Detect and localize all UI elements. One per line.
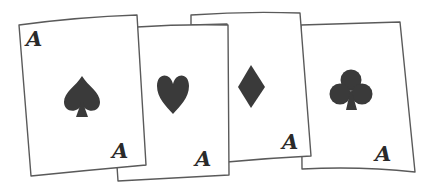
card-ace-of-spades: A A <box>19 15 146 176</box>
rank-label-bottom: A <box>373 141 391 166</box>
rank-label-bottom: A <box>193 146 211 171</box>
aces-illustration: A A A A A <box>0 0 437 193</box>
rank-label-top: A <box>24 26 42 51</box>
card-ace-of-clubs: A <box>301 22 415 172</box>
rank-label-bottom: A <box>110 138 128 163</box>
rank-label-bottom: A <box>280 129 298 154</box>
